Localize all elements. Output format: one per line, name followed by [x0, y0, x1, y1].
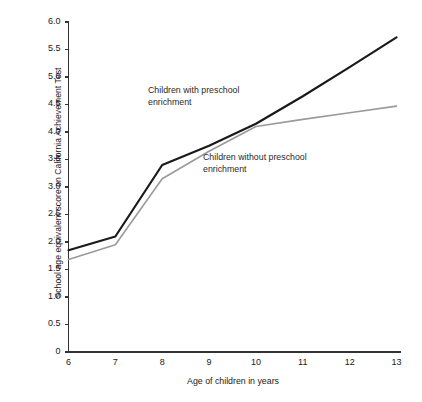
x-tick-label: 10	[244, 357, 268, 367]
y-tick-label: 6.0	[27, 16, 61, 26]
x-axis-label: Age of children in years	[68, 376, 398, 386]
chart-container: School age equivalent score on Californi…	[0, 0, 422, 402]
y-tick-label: 1.0	[27, 291, 61, 301]
series-line-with-enrichment	[69, 37, 397, 250]
x-tick-label: 13	[385, 357, 409, 367]
y-tick-label: 4.0	[27, 126, 61, 136]
x-tick-label: 6	[57, 357, 81, 367]
chart-axes	[69, 22, 401, 352]
x-tick-label: 9	[197, 357, 221, 367]
annotation-with-enrichment: Children with preschool enrichment	[148, 85, 239, 108]
y-tick-label: 3.0	[27, 181, 61, 191]
y-tick-label: 5.0	[27, 71, 61, 81]
y-tick-label: 5.5	[27, 43, 61, 53]
series-line-without-enrichment	[69, 106, 397, 259]
y-tick-label: 4.5	[27, 98, 61, 108]
y-tick-label: 0.5	[27, 318, 61, 328]
chart-series-lines	[69, 37, 397, 259]
x-tick-label: 12	[338, 357, 362, 367]
y-tick-label: 0	[27, 346, 61, 356]
annotation-without-enrichment: Children without preschool enrichment	[203, 152, 307, 175]
line-chart-plot	[0, 0, 422, 402]
x-tick-label: 7	[103, 357, 127, 367]
x-tick-label: 11	[291, 357, 315, 367]
x-tick-label: 8	[150, 357, 174, 367]
y-tick-label: 1.5	[27, 263, 61, 273]
y-tick-label: 2.5	[27, 208, 61, 218]
y-tick-label: 3.5	[27, 153, 61, 163]
y-tick-label: 2.0	[27, 236, 61, 246]
